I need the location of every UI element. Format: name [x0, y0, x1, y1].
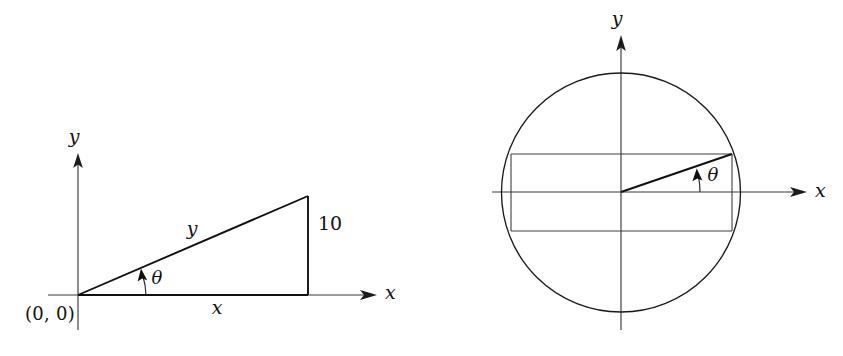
left-origin-label: (0, 0) [25, 303, 75, 324]
triangle-height-label: 10 [318, 212, 342, 234]
left-theta-label: θ [152, 267, 163, 288]
right-y-axis-label: y [611, 7, 623, 29]
diagram-canvas: y x (0, 0) x 10 y θ [0, 0, 843, 356]
figure-root: y x (0, 0) x 10 y θ [0, 0, 843, 356]
triangle-hypotenuse-label: y [186, 217, 198, 239]
left-theta-arrowhead [138, 269, 148, 282]
left-panel: y x (0, 0) x 10 y θ [25, 125, 396, 330]
right-x-axis-label: x [815, 179, 826, 201]
right-panel: y x θ [492, 7, 826, 330]
left-x-axis-label: x [385, 281, 396, 303]
right-theta-label: θ [708, 164, 719, 185]
triangle-hypotenuse-side [78, 196, 308, 295]
triangle-base-label: x [212, 296, 223, 318]
right-theta-arrowhead [692, 169, 702, 182]
left-y-axis-label: y [68, 125, 80, 147]
